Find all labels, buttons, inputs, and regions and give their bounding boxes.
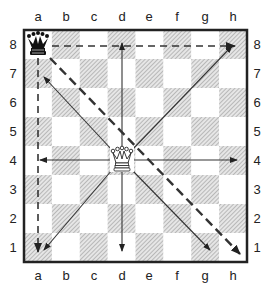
square-g8 bbox=[191, 30, 219, 59]
square-g3 bbox=[191, 175, 219, 204]
square-f8 bbox=[163, 30, 191, 59]
rank-label-4: 4 bbox=[253, 153, 260, 168]
rank-label-8: 8 bbox=[253, 37, 260, 52]
square-g4 bbox=[191, 146, 219, 175]
square-e6 bbox=[136, 88, 164, 117]
rank-label-1: 1 bbox=[253, 240, 260, 255]
file-label-c: c bbox=[91, 9, 98, 24]
rank-label-5: 5 bbox=[9, 124, 16, 139]
square-e2 bbox=[136, 204, 164, 233]
square-h1 bbox=[219, 233, 247, 262]
square-h3 bbox=[219, 175, 247, 204]
square-c4 bbox=[80, 146, 108, 175]
square-c2 bbox=[80, 204, 108, 233]
file-label-e: e bbox=[145, 9, 152, 24]
file-label-e: e bbox=[145, 268, 152, 283]
rank-label-6: 6 bbox=[253, 95, 260, 110]
file-label-g: g bbox=[201, 9, 208, 24]
file-label-h: h bbox=[229, 268, 236, 283]
square-b5 bbox=[52, 117, 80, 146]
rank-labels-left: 8 7 6 5 4 3 2 1 bbox=[9, 37, 16, 255]
square-a1 bbox=[24, 233, 52, 262]
file-label-g: g bbox=[201, 268, 208, 283]
rank-label-3: 3 bbox=[9, 182, 16, 197]
square-g2 bbox=[191, 204, 219, 233]
square-e1 bbox=[136, 233, 164, 262]
rank-label-8: 8 bbox=[9, 37, 16, 52]
square-b2 bbox=[52, 204, 80, 233]
file-label-a: a bbox=[34, 9, 42, 24]
rank-label-3: 3 bbox=[253, 182, 260, 197]
rank-label-6: 6 bbox=[9, 95, 16, 110]
square-f7 bbox=[163, 59, 191, 88]
file-label-d: d bbox=[118, 268, 125, 283]
square-b3 bbox=[52, 175, 80, 204]
square-e7 bbox=[136, 59, 164, 88]
rank-label-1: 1 bbox=[9, 240, 16, 255]
file-label-b: b bbox=[62, 9, 69, 24]
square-f1 bbox=[163, 233, 191, 262]
rank-label-2: 2 bbox=[9, 211, 16, 226]
square-f5 bbox=[163, 117, 191, 146]
rank-label-4: 4 bbox=[9, 153, 16, 168]
white-queen-icon bbox=[110, 146, 134, 172]
square-h5 bbox=[219, 117, 247, 146]
square-b6 bbox=[52, 88, 80, 117]
square-c5 bbox=[80, 117, 108, 146]
square-c1 bbox=[80, 233, 108, 262]
square-f2 bbox=[163, 204, 191, 233]
square-e8 bbox=[136, 30, 164, 59]
square-b8 bbox=[52, 30, 80, 59]
file-label-b: b bbox=[62, 268, 69, 283]
square-h2 bbox=[219, 204, 247, 233]
square-b4 bbox=[52, 146, 80, 175]
square-b1 bbox=[52, 233, 80, 262]
rank-label-2: 2 bbox=[253, 211, 260, 226]
rank-label-5: 5 bbox=[253, 124, 260, 139]
square-h6 bbox=[219, 88, 247, 117]
file-labels-bottom: a b c d e f g h bbox=[34, 268, 236, 283]
file-labels-top: a b c d e f g h bbox=[34, 9, 236, 24]
square-f4 bbox=[163, 146, 191, 175]
square-h7 bbox=[219, 59, 247, 88]
square-c7 bbox=[80, 59, 108, 88]
square-g5 bbox=[191, 117, 219, 146]
file-label-c: c bbox=[91, 268, 98, 283]
square-g1 bbox=[191, 233, 219, 262]
file-label-a: a bbox=[34, 268, 42, 283]
file-label-d: d bbox=[118, 9, 125, 24]
rank-labels-right: 8 7 6 5 4 3 2 1 bbox=[253, 37, 260, 255]
square-g6 bbox=[191, 88, 219, 117]
file-label-f: f bbox=[175, 268, 179, 283]
rank-label-7: 7 bbox=[9, 66, 16, 81]
rank-label-7: 7 bbox=[253, 66, 260, 81]
square-c8 bbox=[80, 30, 108, 59]
square-e3 bbox=[136, 175, 164, 204]
file-label-h: h bbox=[229, 9, 236, 24]
file-label-f: f bbox=[175, 9, 179, 24]
chess-queen-moves-diagram: a b c d e f g h a b c d e f g h 8 7 6 5 … bbox=[0, 0, 270, 286]
square-h4 bbox=[219, 146, 247, 175]
